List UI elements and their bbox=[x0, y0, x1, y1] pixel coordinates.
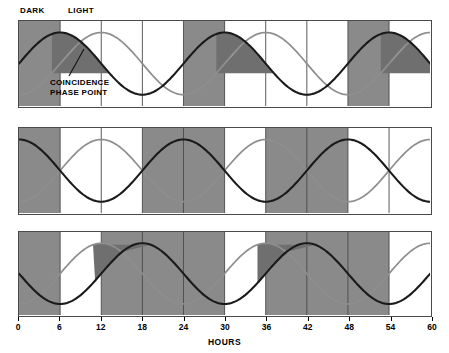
x-tick-label-24: 24 bbox=[179, 322, 188, 332]
dark-band-3 bbox=[266, 232, 389, 315]
coincidence-annotation: COINCIDENCE PHASE POINT bbox=[50, 78, 109, 98]
x-tick-0 bbox=[18, 317, 19, 321]
x-tick-label-30: 30 bbox=[220, 322, 229, 332]
x-tick-12 bbox=[101, 317, 102, 321]
x-tick-label-6: 6 bbox=[57, 322, 62, 332]
x-tick-6 bbox=[59, 317, 60, 321]
x-tick-54 bbox=[391, 317, 392, 321]
x-tick-36 bbox=[266, 317, 267, 321]
panel-middle bbox=[18, 127, 432, 215]
x-tick-24 bbox=[184, 317, 185, 321]
x-tick-48 bbox=[349, 317, 350, 321]
x-tick-label-42: 42 bbox=[303, 322, 312, 332]
x-tick-label-54: 54 bbox=[386, 322, 395, 332]
x-tick-42 bbox=[308, 317, 309, 321]
x-tick-label-36: 36 bbox=[262, 322, 271, 332]
x-tick-30 bbox=[225, 317, 226, 321]
coincidence-annotation-line2: PHASE POINT bbox=[50, 88, 109, 98]
dark-label: DARK bbox=[20, 6, 45, 15]
dark-band-2 bbox=[101, 232, 224, 315]
light-label: LIGHT bbox=[68, 6, 94, 15]
panel-plot-3 bbox=[19, 232, 430, 315]
x-tick-label-0: 0 bbox=[16, 322, 21, 332]
x-tick-label-12: 12 bbox=[96, 322, 105, 332]
figure-root: DARK LIGHT COINCIDENCE PHASE POINT HOURS… bbox=[0, 0, 449, 353]
panel-plot-2 bbox=[19, 128, 430, 213]
x-axis-title: HOURS bbox=[0, 337, 449, 347]
x-tick-label-18: 18 bbox=[137, 322, 146, 332]
x-tick-label-60: 60 bbox=[427, 322, 436, 332]
x-tick-60 bbox=[432, 317, 433, 321]
coincidence-annotation-line1: COINCIDENCE bbox=[50, 78, 109, 88]
x-tick-18 bbox=[142, 317, 143, 321]
x-tick-label-48: 48 bbox=[344, 322, 353, 332]
x-axis: HOURS 06121824303642485460 bbox=[0, 317, 449, 353]
panel-bottom bbox=[18, 231, 432, 317]
